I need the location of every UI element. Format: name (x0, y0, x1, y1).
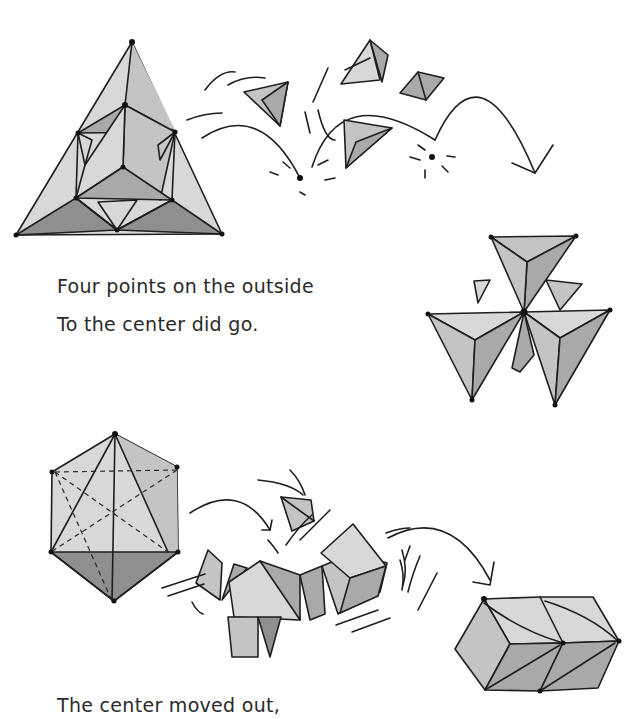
double-rhombic-block (388, 528, 622, 694)
verse-line-2: To the center did go. (57, 313, 259, 335)
moving-pieces (162, 470, 410, 657)
verse-line-3: The center moved out, (57, 694, 280, 716)
star-tetrahedron-triangle (14, 39, 225, 238)
illustration-canvas (0, 0, 633, 719)
stellated-tetrahedra-cluster (426, 234, 613, 408)
verse-line-1: Four points on the outside (57, 275, 314, 297)
flying-tetrahedra (187, 40, 553, 195)
octahedron-in-hexagon (49, 431, 181, 604)
